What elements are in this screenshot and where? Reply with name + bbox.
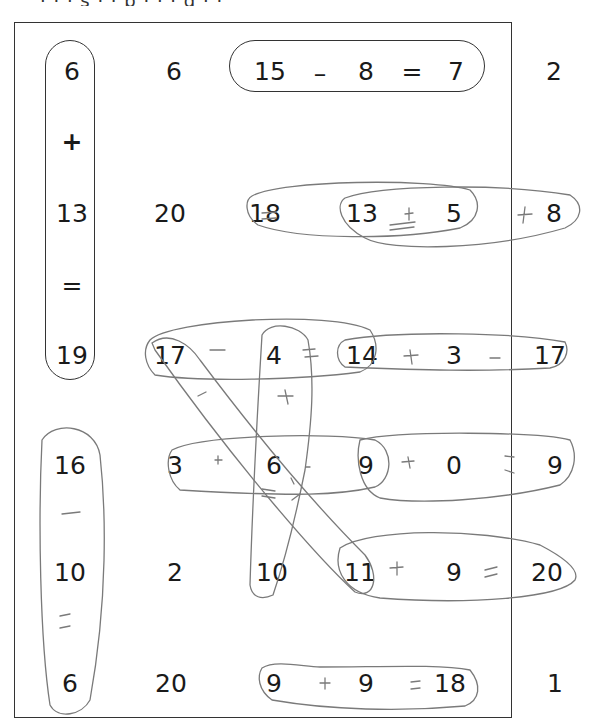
number-cell: 15 <box>254 59 286 84</box>
number-cell: 20 <box>155 671 187 696</box>
number-cell: 5 <box>446 201 462 226</box>
number-cell: 1 <box>547 671 563 696</box>
number-cell: 7 <box>448 59 464 84</box>
pencil-sign <box>518 207 532 223</box>
number-cell: 16 <box>54 453 86 478</box>
cropped-header-text: · · · s · · p · · · g · · <box>40 0 360 6</box>
number-cell: 9 <box>547 453 563 478</box>
number-cell: 10 <box>256 560 288 585</box>
number-cell: 13 <box>56 201 88 226</box>
number-cell: 20 <box>531 560 563 585</box>
number-cell: 9 <box>358 453 374 478</box>
operator-cell: – <box>314 61 327 86</box>
number-cell: 13 <box>346 201 378 226</box>
number-cell: 9 <box>446 560 462 585</box>
number-cell: 4 <box>266 343 282 368</box>
number-cell: 20 <box>154 201 186 226</box>
number-cell: 9 <box>266 671 282 696</box>
number-cell: 17 <box>154 343 186 368</box>
number-cell: 6 <box>166 59 182 84</box>
number-cell: 18 <box>249 201 281 226</box>
number-cell: 10 <box>54 560 86 585</box>
number-cell: 3 <box>446 343 462 368</box>
number-cell: 2 <box>546 59 562 84</box>
number-cell: 18 <box>434 671 466 696</box>
number-cell: 19 <box>56 343 88 368</box>
number-cell: 3 <box>167 453 183 478</box>
number-cell: 14 <box>346 343 378 368</box>
number-cell: 6 <box>266 453 282 478</box>
number-cell: 2 <box>167 560 183 585</box>
number-cell: 9 <box>358 671 374 696</box>
operator-cell: + <box>62 129 83 154</box>
number-cell: 0 <box>446 453 462 478</box>
number-cell: 6 <box>62 671 78 696</box>
number-cell: 11 <box>344 560 376 585</box>
number-cell: 8 <box>358 59 374 84</box>
operator-cell: = <box>402 59 423 84</box>
number-cell: 17 <box>534 343 566 368</box>
operator-cell: = <box>62 273 83 298</box>
number-cell: 8 <box>546 201 562 226</box>
number-cell: 6 <box>64 59 80 84</box>
